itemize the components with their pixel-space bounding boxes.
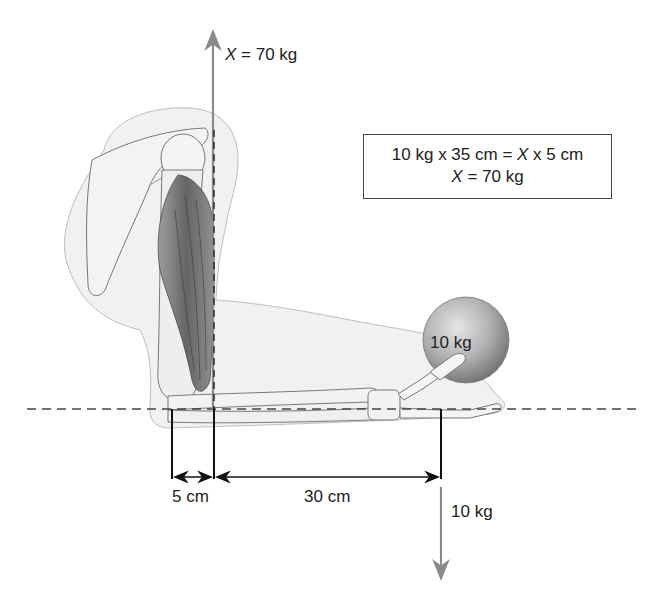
ball-weight-label: 10 kg: [430, 334, 472, 351]
equation-line-2: X = 70 kg: [364, 166, 611, 188]
load-arm-label: 30 cm: [304, 488, 350, 505]
muscle-force-label: X = 70 kg: [225, 46, 297, 63]
effort-arm-label: 5 cm: [172, 488, 209, 505]
muscle-force-arrow: [213, 40, 214, 409]
equation-line-1: 10 kg x 35 cm = X x 5 cm: [364, 144, 611, 166]
load-force-label: 10 kg: [451, 503, 493, 520]
equation-box: 10 kg x 35 cm = X x 5 cm X = 70 kg: [363, 134, 612, 199]
lever-diagram: X = 70 kg 10 kg x 35 cm = X x 5 cm X = 7…: [0, 0, 656, 599]
diagram-canvas: [0, 0, 656, 599]
